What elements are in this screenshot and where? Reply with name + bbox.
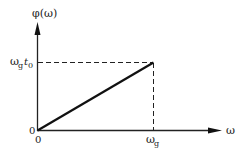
y-tick-t-sub: 0: [28, 61, 33, 70]
phase-chart: φ(ω) ω ω g t 0 0 0 ω g: [0, 0, 244, 153]
y-axis-label: φ(ω): [32, 7, 57, 20]
phase-line: [38, 63, 154, 131]
y-tick-omega-sub: g: [18, 61, 23, 70]
x-tick-omega-sub: g: [154, 139, 159, 148]
y-axis-arrow-icon: [35, 22, 41, 35]
x-origin-label: 0: [35, 134, 41, 145]
x-axis-label: ω: [226, 124, 235, 137]
x-axis-arrow-icon: [208, 128, 222, 134]
